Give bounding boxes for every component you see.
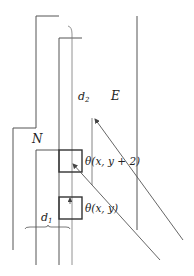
label-theta-bottom: θ(x, y) [85, 202, 118, 214]
central-vertical-line [68, 26, 72, 265]
d1-brace [25, 225, 70, 229]
diagonal-arrow-upper [95, 119, 183, 240]
box-theta-top [59, 150, 82, 172]
label-d1: d1 [41, 211, 53, 225]
diagram-canvas: d2 E N θ(x, y + 2) θ(x, y) d1 [0, 0, 194, 276]
n-region-boundary [36, 150, 59, 265]
label-E: E [110, 89, 120, 103]
inner-channel-top [59, 38, 82, 265]
box-theta-bottom [59, 197, 82, 219]
label-d2: d2 [78, 90, 90, 104]
label-theta-top: θ(x, y + 2) [85, 155, 140, 167]
label-N: N [31, 132, 43, 146]
